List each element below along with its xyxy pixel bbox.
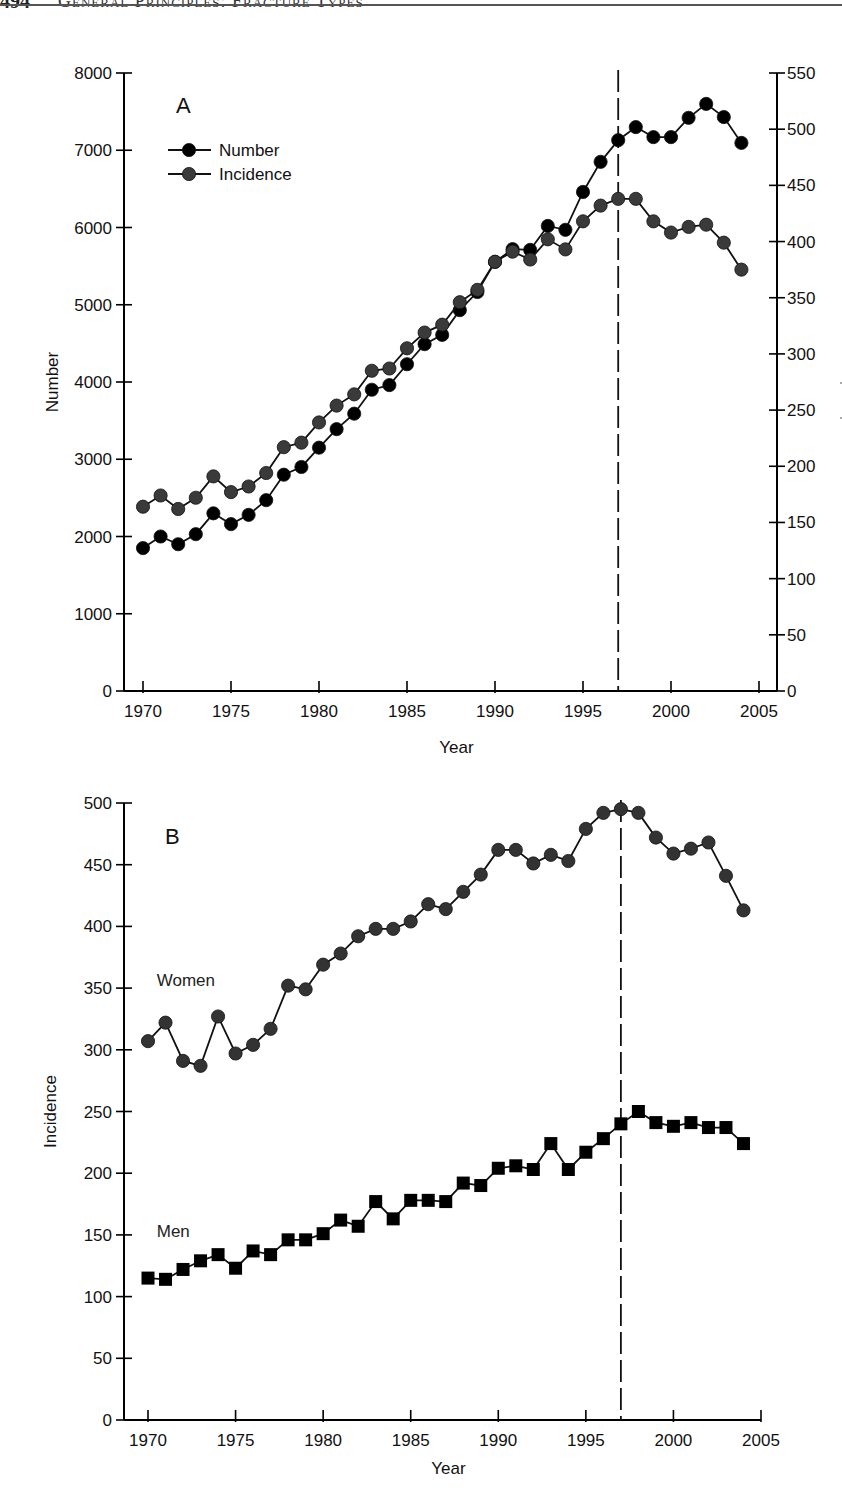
x-tick-label: 1975	[212, 702, 250, 721]
data-marker-circle	[312, 441, 325, 454]
y2-tick-label: 250	[787, 401, 815, 420]
data-marker-circle	[229, 1047, 242, 1060]
data-marker-circle	[594, 199, 607, 212]
data-marker-circle	[541, 233, 554, 246]
data-marker-circle	[647, 215, 660, 228]
series-men	[142, 1105, 750, 1286]
data-marker-circle	[700, 218, 713, 231]
data-marker-circle	[422, 898, 435, 911]
data-marker-square	[684, 1116, 697, 1129]
y2-tick-label: 0	[787, 682, 796, 701]
data-marker-circle	[664, 131, 677, 144]
legend-item-number: Number	[168, 141, 280, 160]
data-marker-circle	[404, 915, 417, 928]
y2-tick-label: 300	[787, 345, 815, 364]
data-marker-circle	[348, 407, 361, 420]
data-marker-square	[387, 1212, 400, 1225]
data-marker-circle	[383, 362, 396, 375]
data-marker-circle	[614, 803, 627, 816]
data-marker-circle	[189, 491, 202, 504]
data-marker-circle	[176, 1054, 189, 1067]
y2-tick-label: 500	[787, 120, 815, 139]
data-marker-circle	[172, 538, 185, 551]
legend-marker-circle	[182, 167, 195, 180]
x-axis-title: Year	[439, 738, 474, 757]
y-tick-label: 350	[84, 979, 112, 998]
y-tick-label: 0	[103, 682, 112, 701]
y-tick-label: 100	[84, 1288, 112, 1307]
data-marker-circle	[242, 480, 255, 493]
y-tick-label: 450	[84, 856, 112, 875]
data-marker-circle	[700, 97, 713, 110]
y-tick-label: 8000	[74, 64, 112, 83]
y-tick-label: 150	[84, 1226, 112, 1245]
y2-tick-label: 450	[787, 176, 815, 195]
data-marker-square	[527, 1163, 540, 1176]
chart-panel-a: 0100020003000400050006000700080000501001…	[43, 64, 842, 757]
data-marker-square	[229, 1262, 242, 1275]
y2-tick-label: 350	[787, 289, 815, 308]
data-marker-circle	[436, 318, 449, 331]
x-tick-label: 2000	[655, 1431, 693, 1450]
data-marker-circle	[632, 806, 645, 819]
data-marker-circle	[541, 219, 554, 232]
data-marker-square	[632, 1105, 645, 1118]
series-label-women: Women	[157, 971, 215, 990]
data-marker-square	[194, 1254, 207, 1267]
data-marker-circle	[189, 528, 202, 541]
data-marker-circle	[562, 854, 575, 867]
data-marker-circle	[312, 416, 325, 429]
data-marker-circle	[647, 131, 660, 144]
data-marker-circle	[735, 263, 748, 276]
x-tick-label: 2005	[740, 702, 778, 721]
data-marker-circle	[629, 192, 642, 205]
data-marker-circle	[246, 1038, 259, 1051]
data-marker-circle	[576, 215, 589, 228]
x-tick-label: 1975	[217, 1431, 255, 1450]
data-marker-circle	[702, 836, 715, 849]
data-marker-circle	[260, 494, 273, 507]
data-marker-circle	[682, 220, 695, 233]
y-tick-label: 500	[84, 794, 112, 813]
y-tick-label: 7000	[74, 141, 112, 160]
data-marker-circle	[664, 226, 677, 239]
data-marker-circle	[439, 903, 452, 916]
y2-tick-label: 50	[787, 626, 806, 645]
data-marker-circle	[295, 460, 308, 473]
data-marker-square	[334, 1214, 347, 1227]
data-marker-circle	[277, 441, 290, 454]
data-marker-circle	[207, 507, 220, 520]
data-marker-square	[439, 1195, 452, 1208]
y-tick-label: 400	[84, 917, 112, 936]
x-tick-label: 1990	[479, 1431, 517, 1450]
series-women	[141, 803, 750, 1073]
data-marker-circle	[612, 192, 625, 205]
legend-label: Incidence	[219, 165, 292, 184]
data-marker-square	[299, 1233, 312, 1246]
y-axis-title: Number	[43, 351, 62, 412]
x-tick-label: 1995	[567, 1431, 605, 1450]
series-line	[143, 199, 741, 509]
y-tick-label: 3000	[74, 450, 112, 469]
x-tick-label: 1995	[564, 702, 602, 721]
data-marker-circle	[400, 358, 413, 371]
y-tick-label: 6000	[74, 219, 112, 238]
legend-marker-circle	[182, 143, 195, 156]
data-marker-square	[264, 1248, 277, 1261]
data-marker-circle	[330, 423, 343, 436]
data-marker-square	[212, 1248, 225, 1261]
panel-label: B	[165, 824, 180, 849]
data-marker-circle	[211, 1010, 224, 1023]
data-marker-square	[457, 1177, 470, 1190]
y-tick-label: 2000	[74, 528, 112, 547]
data-marker-circle	[194, 1059, 207, 1072]
data-marker-circle	[330, 399, 343, 412]
series-label-men: Men	[157, 1222, 190, 1241]
data-marker-square	[509, 1159, 522, 1172]
data-marker-circle	[159, 1016, 172, 1029]
data-marker-square	[474, 1179, 487, 1192]
data-marker-circle	[383, 378, 396, 391]
data-marker-square	[247, 1244, 260, 1257]
data-marker-circle	[365, 383, 378, 396]
data-marker-square	[177, 1263, 190, 1276]
